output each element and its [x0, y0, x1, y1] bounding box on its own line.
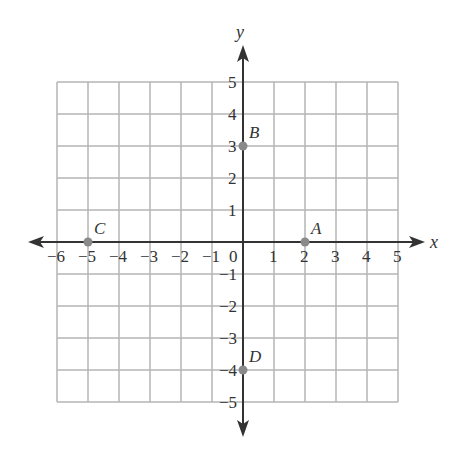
point-label: A	[310, 219, 322, 238]
x-tick-label: −1	[202, 247, 220, 266]
point-marker-icon	[301, 238, 310, 247]
y-tick-label: −1	[219, 265, 237, 284]
point-label: B	[249, 123, 260, 142]
point-label: D	[248, 347, 262, 366]
y-tick-label: −4	[219, 361, 238, 380]
y-tick-label: −2	[219, 297, 237, 316]
x-tick-label: −2	[171, 247, 189, 266]
x-tick-label: −4	[109, 247, 128, 266]
x-tick-label: 3	[331, 247, 340, 266]
point-marker-icon	[239, 142, 248, 151]
x-tick-label: 4	[362, 247, 371, 266]
point-marker-icon	[239, 366, 248, 375]
y-tick-label: −3	[219, 329, 237, 348]
y-tick-label: 3	[228, 137, 237, 156]
coordinate-plane: x y −6−5−4−3−2−101234512345−1−2−3−4−5 AB…	[0, 0, 455, 456]
y-tick-label: 1	[228, 201, 237, 220]
y-tick-label: 2	[228, 169, 237, 188]
point-marker-icon	[84, 238, 93, 247]
x-axis-label: x	[429, 232, 438, 252]
y-tick-label: 5	[228, 73, 237, 92]
y-tick-label: 4	[228, 105, 237, 124]
x-tick-label: 5	[393, 247, 402, 266]
x-tick-label: 2	[300, 247, 309, 266]
x-tick-label: 1	[269, 247, 278, 266]
x-tick-label: −3	[140, 247, 158, 266]
x-tick-label: −6	[47, 247, 65, 266]
y-tick-label: −5	[219, 393, 237, 412]
x-tick-label: −5	[78, 247, 96, 266]
point-label: C	[94, 219, 106, 238]
x-tick-label: 0	[229, 247, 238, 266]
y-axis-label: y	[234, 22, 244, 42]
